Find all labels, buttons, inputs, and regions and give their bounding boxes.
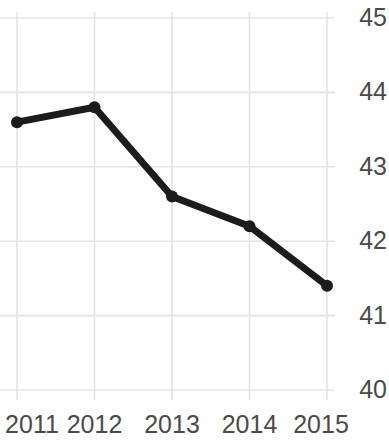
vertical-gridlines bbox=[17, 12, 327, 400]
plot-canvas bbox=[0, 0, 340, 400]
y-axis-tick-43: 43 bbox=[344, 154, 387, 179]
horizontal-gridlines bbox=[0, 18, 335, 390]
plot-area bbox=[0, 0, 340, 400]
data-point-marker bbox=[244, 220, 256, 232]
x-axis-tick-2011: 2011 bbox=[5, 412, 59, 437]
x-axis-tick-2015: 2015 bbox=[293, 412, 349, 437]
y-axis-tick-labels: 454443424140 bbox=[344, 0, 389, 400]
data-point-marker bbox=[11, 116, 23, 128]
x-axis-tick-2014: 2014 bbox=[222, 412, 278, 437]
x-axis-tick-2013: 2013 bbox=[144, 412, 200, 437]
data-point-marker bbox=[89, 101, 101, 113]
x-axis-tick-2012: 2012 bbox=[67, 412, 123, 437]
line-chart: 454443424140 20112012201320142015 bbox=[0, 0, 389, 447]
y-axis-tick-45: 45 bbox=[344, 5, 387, 30]
y-axis-tick-44: 44 bbox=[344, 79, 387, 104]
x-axis-tick-labels: 20112012201320142015 bbox=[0, 412, 389, 447]
y-axis-tick-42: 42 bbox=[344, 228, 387, 253]
data-point-marker bbox=[166, 191, 178, 203]
y-axis-tick-40: 40 bbox=[344, 377, 387, 402]
data-point-marker bbox=[321, 280, 333, 292]
y-axis-tick-41: 41 bbox=[344, 303, 387, 328]
